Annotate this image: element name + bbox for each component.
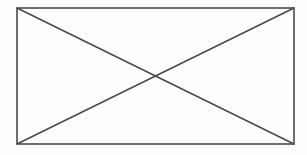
diagram-canvas	[0, 0, 307, 155]
